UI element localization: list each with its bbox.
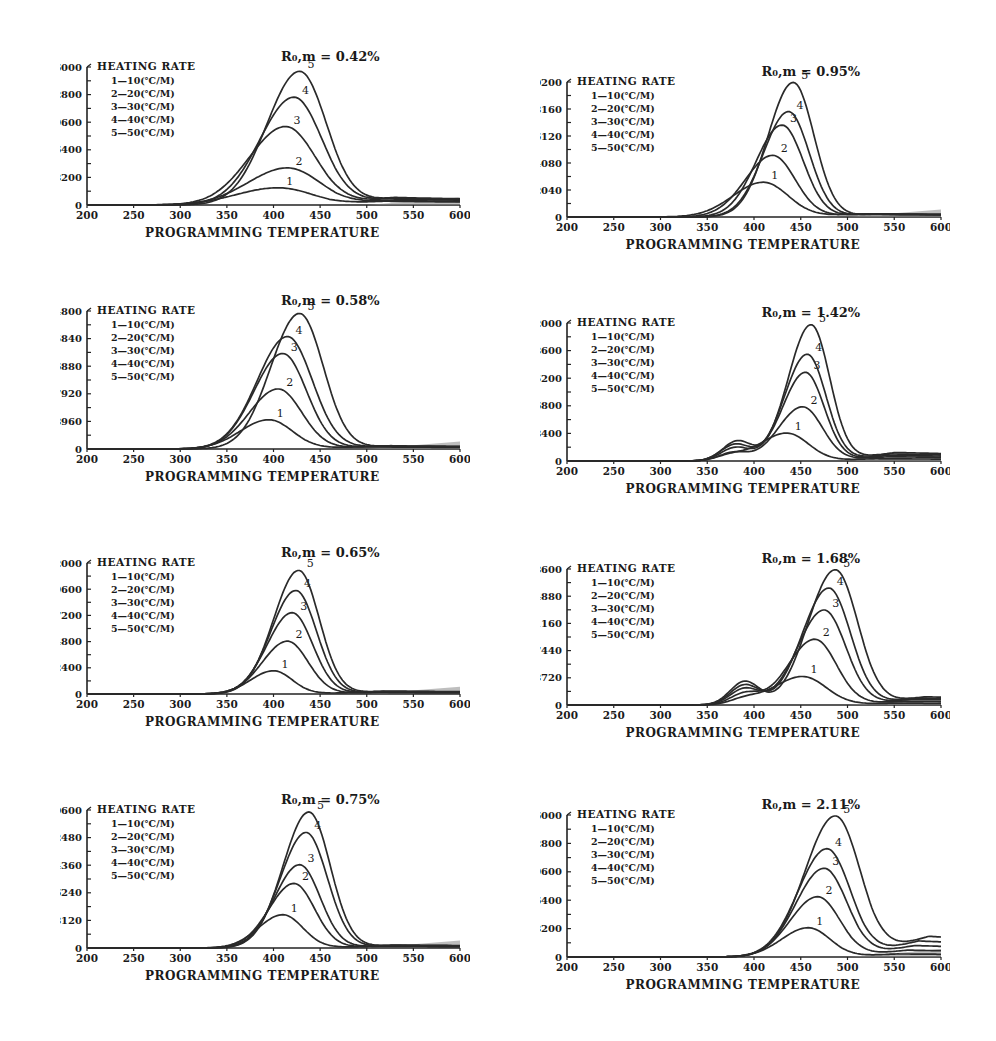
x-tick-label: 450 — [309, 209, 331, 221]
x-axis-label: PROGRAMMING TEMPERATURE — [145, 715, 380, 729]
chart-panel-2.11: R₀,m = 2.11%1600012800960064003200020025… — [540, 795, 950, 1005]
legend-item: 4—40(℃/M) — [591, 616, 655, 627]
x-tick-label: 600 — [930, 221, 950, 233]
x-tick-label: 200 — [556, 465, 578, 477]
y-tick-label: 37200 — [60, 610, 82, 621]
x-axis-label: PROGRAMMING TEMPERATURE — [625, 726, 860, 740]
y-tick-label: 32480 — [60, 832, 82, 843]
x-tick-label: 600 — [930, 465, 950, 477]
chart-title: R₀,m = 0.95% — [761, 64, 860, 79]
curve-number-label: 3 — [308, 852, 315, 865]
legend-title: HEATING RATE — [577, 75, 676, 87]
x-tick-label: 200 — [76, 698, 98, 710]
x-tick-label: 250 — [123, 952, 145, 964]
y-tick-label: 25200 — [540, 373, 562, 384]
x-tick-label: 350 — [216, 698, 238, 710]
tpy-chart: R₀,m = 0.95%6020048160361202408012040020… — [540, 60, 950, 265]
curve-number-label: 5 — [307, 557, 314, 570]
x-tick-label: 350 — [696, 709, 718, 721]
x-tick-label: 200 — [556, 221, 578, 233]
x-tick-label: 500 — [356, 952, 378, 964]
legend-item: 5—50(℃/M) — [591, 629, 655, 640]
y-tick-label: 62000 — [60, 558, 82, 569]
x-tick-label: 400 — [263, 698, 285, 710]
x-tick-label: 450 — [790, 221, 812, 233]
legend-item: 5—50(℃/M) — [591, 875, 655, 886]
legend-item: 3—30(℃/M) — [591, 603, 655, 614]
legend: HEATING RATE1—10(℃/M)2—20(℃/M)3—30(℃/M)4… — [577, 316, 676, 394]
x-tick-label: 200 — [76, 209, 98, 221]
x-tick-label: 550 — [883, 961, 905, 973]
y-tick-label: 6400 — [60, 144, 82, 155]
y-tick-label: 35840 — [60, 333, 82, 344]
y-tick-label: 17920 — [60, 388, 82, 399]
legend-item: 5—50(℃/M) — [591, 383, 655, 394]
curve-number-label: 5 — [317, 799, 324, 812]
x-tick-label: 600 — [449, 952, 470, 964]
tpy-chart: R₀,m = 2.11%1600012800960064003200020025… — [540, 795, 950, 1005]
y-tick-label: 49600 — [60, 584, 82, 595]
curve-number-label: 5 — [308, 300, 315, 313]
curve-number-label: 5 — [308, 58, 315, 71]
x-axis-label: PROGRAMMING TEMPERATURE — [145, 969, 380, 983]
legend-item: 1—10(℃/M) — [111, 571, 175, 582]
curve-number-label: 2 — [823, 626, 830, 639]
curve-heating-rate-2 — [87, 641, 460, 694]
x-tick-label: 250 — [603, 709, 625, 721]
curve-number-label: 2 — [286, 376, 293, 389]
x-axis-label: PROGRAMMING TEMPERATURE — [625, 482, 860, 496]
x-tick-label: 250 — [603, 221, 625, 233]
legend-item: 4—40(℃/M) — [591, 370, 655, 381]
legend-item: 2—20(℃/M) — [591, 836, 655, 847]
x-tick-label: 550 — [883, 709, 905, 721]
x-tick-label: 500 — [837, 961, 859, 973]
legend-item: 1—10(℃/M) — [111, 75, 175, 86]
x-tick-label: 250 — [123, 453, 145, 465]
x-tick-label: 350 — [216, 453, 238, 465]
chart-panel-0.58: R₀,m = 0.58%4480035840268801792089600200… — [60, 290, 470, 500]
x-tick-label: 450 — [790, 961, 812, 973]
y-tick-label: 16800 — [540, 400, 562, 411]
legend-item: 4—40(℃/M) — [111, 610, 175, 621]
x-tick-label: 300 — [650, 961, 672, 973]
legend-item: 3—30(℃/M) — [591, 849, 655, 860]
legend-item: 1—10(℃/M) — [591, 331, 655, 342]
curve-number-label: 5 — [843, 803, 850, 816]
x-tick-label: 550 — [402, 698, 424, 710]
x-tick-label: 400 — [263, 952, 285, 964]
legend-item: 4—40(℃/M) — [591, 862, 655, 873]
x-tick-label: 450 — [309, 952, 331, 964]
chart-panel-0.75: R₀,m = 0.75%4060032480243601624081200200… — [60, 785, 470, 1000]
legend: HEATING RATE1—10(℃/M)2—20(℃/M)3—30(℃/M)4… — [97, 803, 196, 881]
legend-item: 5—50(℃/M) — [111, 371, 175, 382]
x-tick-label: 550 — [402, 209, 424, 221]
curve-heating-rate-3 — [87, 127, 460, 206]
curve-number-label: 2 — [295, 628, 302, 641]
legend-item: 3—30(℃/M) — [111, 101, 175, 112]
x-tick-label: 600 — [930, 709, 950, 721]
y-tick-label: 42000 — [540, 318, 562, 329]
x-tick-label: 250 — [603, 465, 625, 477]
legend-item: 5—50(℃/M) — [111, 870, 175, 881]
curve-number-label: 1 — [771, 169, 778, 182]
y-tick-label: 8400 — [540, 428, 562, 439]
y-tick-label: 44800 — [60, 306, 82, 317]
legend: HEATING RATE1—10(℃/M)2—20(℃/M)3—30(℃/M)4… — [577, 562, 676, 640]
curve-number-label: 2 — [826, 884, 833, 897]
chart-panel-1.42: R₀,m = 1.42%4200033600252001680084000200… — [540, 300, 950, 510]
x-tick-label: 300 — [650, 221, 672, 233]
y-tick-label: 3200 — [540, 923, 562, 934]
legend-item: 3—30(℃/M) — [111, 345, 175, 356]
curve-number-label: 3 — [294, 114, 301, 127]
x-tick-label: 400 — [743, 221, 765, 233]
chart-title: R₀,m = 1.42% — [761, 305, 860, 320]
x-tick-label: 500 — [837, 709, 859, 721]
x-tick-label: 250 — [123, 698, 145, 710]
tpy-chart: R₀,m = 0.42%1600012800960064003200020025… — [60, 48, 470, 263]
y-tick-label: 3200 — [60, 172, 82, 183]
legend-item: 2—20(℃/M) — [111, 831, 175, 842]
x-tick-label: 300 — [169, 698, 191, 710]
x-tick-label: 350 — [216, 209, 238, 221]
x-tick-label: 350 — [696, 961, 718, 973]
legend-item: 4—40(℃/M) — [111, 114, 175, 125]
